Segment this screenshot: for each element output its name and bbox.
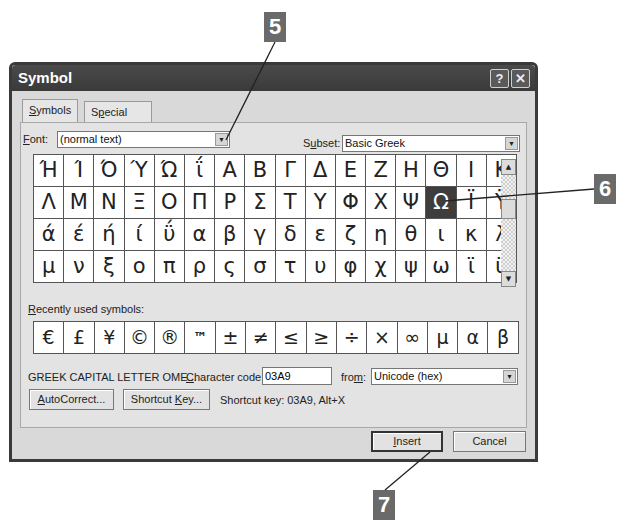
symbol-cell[interactable]: ΰ <box>155 219 185 251</box>
recent-symbol-cell[interactable]: ≤ <box>276 322 306 354</box>
symbol-cell[interactable]: ς <box>215 251 245 283</box>
chevron-down-icon[interactable]: ▼ <box>505 137 518 150</box>
symbol-cell[interactable]: ψ <box>396 251 426 283</box>
symbol-cell[interactable]: ά <box>34 219 64 251</box>
symbol-cell[interactable]: Ξ <box>125 187 155 219</box>
symbol-cell[interactable]: ϊ <box>457 251 487 283</box>
symbol-cell[interactable]: ι <box>426 219 456 251</box>
close-button[interactable]: ✕ <box>511 69 530 88</box>
symbol-cell[interactable]: ρ <box>185 251 215 283</box>
symbol-cell[interactable]: Σ <box>245 187 275 219</box>
symbol-cell[interactable]: ή <box>94 219 124 251</box>
symbol-cell[interactable]: κ <box>457 219 487 251</box>
symbol-cell[interactable]: Η <box>396 155 426 187</box>
symbol-cell[interactable]: Ι <box>457 155 487 187</box>
symbol-cell[interactable]: Γ <box>276 155 306 187</box>
recent-symbol-cell[interactable]: ÷ <box>337 322 367 354</box>
symbol-cell[interactable]: Ρ <box>215 187 245 219</box>
symbol-cell[interactable]: Ώ <box>155 155 185 187</box>
symbol-cell[interactable]: Α <box>215 155 245 187</box>
symbol-grid-row: μνξοπρςστυφχψωϊϋ <box>34 251 517 283</box>
symbol-cell[interactable]: Β <box>245 155 275 187</box>
symbol-cell[interactable]: ξ <box>94 251 124 283</box>
recent-symbol-cell[interactable]: ™ <box>185 322 215 354</box>
shortcut-key-button[interactable]: Shortcut Key... <box>123 389 210 410</box>
recent-symbol-cell[interactable]: × <box>367 322 397 354</box>
recent-symbol-cell[interactable]: ≥ <box>307 322 337 354</box>
recent-symbol-cell[interactable]: £ <box>64 322 94 354</box>
tab-special-characters[interactable]: Special Characters <box>84 101 152 123</box>
symbol-cell[interactable]: Μ <box>64 187 94 219</box>
recent-symbol-cell[interactable]: µ <box>428 322 458 354</box>
symbol-grid-scrollbar[interactable]: ▲ ▼ <box>501 159 516 287</box>
symbol-cell[interactable]: υ <box>306 251 336 283</box>
symbol-cell[interactable]: Δ <box>306 155 336 187</box>
symbol-cell[interactable]: τ <box>276 251 306 283</box>
symbol-cell[interactable]: έ <box>64 219 94 251</box>
symbol-cell[interactable]: α <box>185 219 215 251</box>
recent-symbol-cell[interactable]: ≠ <box>246 322 276 354</box>
from-value: Unicode (hex) <box>374 370 442 382</box>
font-dropdown[interactable]: (normal text) ▼ <box>57 131 230 148</box>
autocorrect-button[interactable]: AutoCorrect... <box>29 389 114 410</box>
symbol-cell[interactable]: β <box>215 219 245 251</box>
symbol-cell[interactable]: φ <box>336 251 366 283</box>
chevron-down-icon[interactable]: ▼ <box>215 133 228 146</box>
symbol-cell[interactable]: ζ <box>336 219 366 251</box>
symbol-cell[interactable]: ε <box>306 219 336 251</box>
symbol-cell[interactable]: Ε <box>336 155 366 187</box>
symbol-cell[interactable]: Ύ <box>125 155 155 187</box>
symbol-cell[interactable]: Π <box>185 187 215 219</box>
symbol-cell[interactable]: Χ <box>366 187 396 219</box>
recent-symbol-cell[interactable]: © <box>125 322 155 354</box>
symbol-cell[interactable]: μ <box>34 251 64 283</box>
symbol-cell[interactable]: π <box>155 251 185 283</box>
symbol-cell[interactable]: Ω <box>426 187 456 219</box>
recent-symbol-cell[interactable]: α <box>458 322 488 354</box>
character-code-input[interactable]: 03A9 <box>262 367 332 385</box>
insert-button[interactable]: Insert <box>371 431 443 452</box>
symbol-cell[interactable]: Ο <box>155 187 185 219</box>
symbol-cell[interactable]: Ό <box>94 155 124 187</box>
recent-symbol-cell[interactable]: ¥ <box>95 322 125 354</box>
symbol-cell[interactable]: γ <box>245 219 275 251</box>
chevron-down-icon[interactable]: ▼ <box>503 370 516 383</box>
symbol-cell[interactable]: ν <box>64 251 94 283</box>
symbol-cell[interactable]: σ <box>245 251 275 283</box>
cancel-button[interactable]: Cancel <box>453 431 526 452</box>
tab-symbols[interactable]: Symbols <box>22 99 78 123</box>
symbol-cell[interactable]: ω <box>426 251 456 283</box>
symbol-cell[interactable]: Φ <box>336 187 366 219</box>
scroll-thumb[interactable] <box>501 199 516 219</box>
dialog-title: Symbol <box>18 69 72 86</box>
subset-label: Subset: <box>303 137 340 149</box>
symbol-grid-row: ΛΜΝΞΟΠΡΣΤΥΦΧΨΩΪΫ <box>34 187 517 219</box>
symbol-cell[interactable]: Λ <box>34 187 64 219</box>
scroll-down-button[interactable]: ▼ <box>501 271 516 287</box>
symbol-cell[interactable]: Ϊ <box>457 187 487 219</box>
symbol-cell[interactable]: Υ <box>306 187 336 219</box>
recent-symbol-cell[interactable]: ∞ <box>398 322 428 354</box>
symbol-cell[interactable]: Ί <box>64 155 94 187</box>
symbol-cell[interactable]: χ <box>366 251 396 283</box>
recent-symbol-cell[interactable]: € <box>34 322 64 354</box>
symbol-cell[interactable]: Ψ <box>396 187 426 219</box>
symbol-cell[interactable]: ί <box>125 219 155 251</box>
recent-symbol-cell[interactable]: β <box>488 322 518 354</box>
symbol-cell[interactable]: Θ <box>426 155 456 187</box>
symbol-cell[interactable]: δ <box>276 219 306 251</box>
symbol-cell[interactable]: ΐ <box>185 155 215 187</box>
recent-symbol-cell[interactable]: ± <box>216 322 246 354</box>
subset-dropdown[interactable]: Basic Greek ▼ <box>342 135 520 152</box>
from-dropdown[interactable]: Unicode (hex) ▼ <box>371 368 518 385</box>
help-button[interactable]: ? <box>490 69 509 88</box>
symbol-cell[interactable]: Ζ <box>366 155 396 187</box>
symbol-cell[interactable]: ο <box>125 251 155 283</box>
scroll-up-button[interactable]: ▲ <box>501 159 516 175</box>
symbol-cell[interactable]: Τ <box>276 187 306 219</box>
symbol-cell[interactable]: η <box>366 219 396 251</box>
recent-symbol-cell[interactable]: ® <box>155 322 185 354</box>
symbol-cell[interactable]: θ <box>396 219 426 251</box>
symbol-cell[interactable]: Ή <box>34 155 64 187</box>
symbol-cell[interactable]: Ν <box>94 187 124 219</box>
